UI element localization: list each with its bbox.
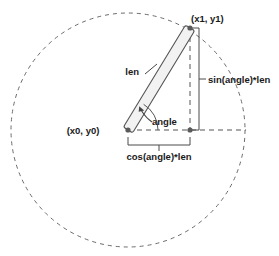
tip-point-marker: [187, 25, 192, 30]
len-leader-line: [145, 64, 157, 74]
endpoint-label: (x1, y1): [191, 13, 224, 24]
trig-arm-diagram: (x1, y1) (x0, y0) len angle cos(angle)*l…: [0, 0, 279, 256]
cos-component-label: cos(angle)*len: [127, 151, 192, 162]
sin-component-label: sin(angle)*len: [208, 74, 270, 85]
corner-point-marker: [187, 127, 192, 132]
length-label: len: [125, 66, 139, 77]
angle-label: angle: [152, 116, 177, 127]
sin-bracket: [190, 28, 206, 130]
origin-label: (x0, y0): [67, 125, 100, 136]
diagram-canvas: (x1, y1) (x0, y0) len angle cos(angle)*l…: [0, 0, 279, 256]
cos-bracket: [128, 137, 190, 151]
pivot-point-marker: [125, 127, 130, 132]
